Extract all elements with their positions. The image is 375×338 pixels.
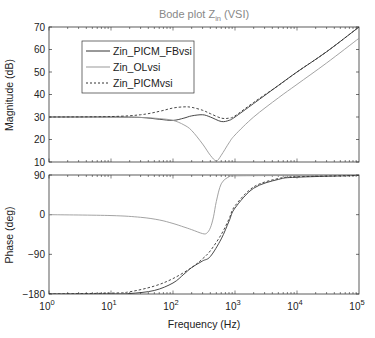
y-tick-label: 70: [34, 22, 46, 33]
x-tick-label: 105: [349, 298, 364, 312]
y-tick-label: −90: [28, 249, 45, 260]
y-tick-label: 0: [39, 209, 45, 220]
y-tick-label: 20: [34, 134, 46, 145]
bode-plot-figure: Bode plot Zin (VSI) 70605040302010 Magni…: [0, 0, 375, 338]
phase-axes: 900−90−180 Phase (deg): [3, 170, 359, 300]
x-tick-label: 103: [225, 298, 240, 312]
svg-text:Zin_OLvsi: Zin_OLvsi: [113, 61, 160, 73]
legend: Zin_PICM_FBvsi Zin_OLvsi Zin_PICMvsi: [82, 41, 194, 93]
x-tick-label: 104: [287, 298, 302, 312]
y-tick-label: 50: [34, 67, 46, 78]
magnitude-y-axis-label: Magnitude (dB): [3, 59, 15, 131]
x-tick-label: 102: [163, 298, 178, 312]
x-tick-label: 100: [39, 298, 54, 312]
y-tick-label: 90: [34, 170, 46, 181]
x-axis-label: Frequency (Hz): [168, 318, 240, 330]
x-tick-labels: 100101102103104105: [39, 298, 364, 312]
chart-title: Bode plot Zin (VSI): [159, 8, 249, 23]
y-tick-label: 60: [34, 44, 46, 55]
y-tick-label: 30: [34, 112, 46, 123]
y-tick-label: 10: [34, 157, 46, 168]
y-tick-label: 40: [34, 89, 46, 100]
phase-y-axis-label: Phase (deg): [3, 206, 15, 263]
svg-text:Zin_PICMvsi: Zin_PICMvsi: [113, 77, 173, 89]
x-tick-label: 101: [101, 298, 116, 312]
y-tick-label: −180: [22, 289, 45, 300]
svg-text:Zin_PICM_FBvsi: Zin_PICM_FBvsi: [113, 45, 192, 57]
